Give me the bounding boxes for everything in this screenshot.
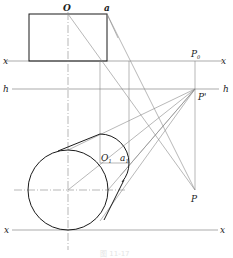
line-o-to-p <box>68 14 195 190</box>
label-P-prime: P' <box>197 92 207 102</box>
label-h-right: h <box>223 84 229 94</box>
label-x-top-right: x <box>221 56 226 66</box>
diagram-canvas: O a x x P0 h h P' O1 a1 P x x 图 11-17 <box>0 0 233 258</box>
label-h-left: h <box>3 84 9 94</box>
line-a-to-p <box>107 14 195 190</box>
label-x-top-left: x <box>3 56 8 66</box>
label-O1: O1 <box>101 153 112 164</box>
fan-line-4 <box>100 89 195 221</box>
cylinder-tangent-top <box>58 134 100 151</box>
label-P0: P0 <box>190 49 201 60</box>
figure-caption: 图 11-17 <box>100 250 130 258</box>
label-O: O <box>63 3 71 13</box>
line-a-extension <box>107 14 118 38</box>
perspective-diagram: O a x x P0 h h P' O1 a1 P x x 图 11-17 <box>0 0 233 258</box>
label-a: a <box>104 3 110 13</box>
fan-line-1 <box>68 89 195 150</box>
label-a1: a1 <box>120 153 129 164</box>
label-P: P <box>190 194 198 204</box>
label-x-bottom-right: x <box>220 225 225 235</box>
label-x-bottom-left: x <box>4 225 9 235</box>
